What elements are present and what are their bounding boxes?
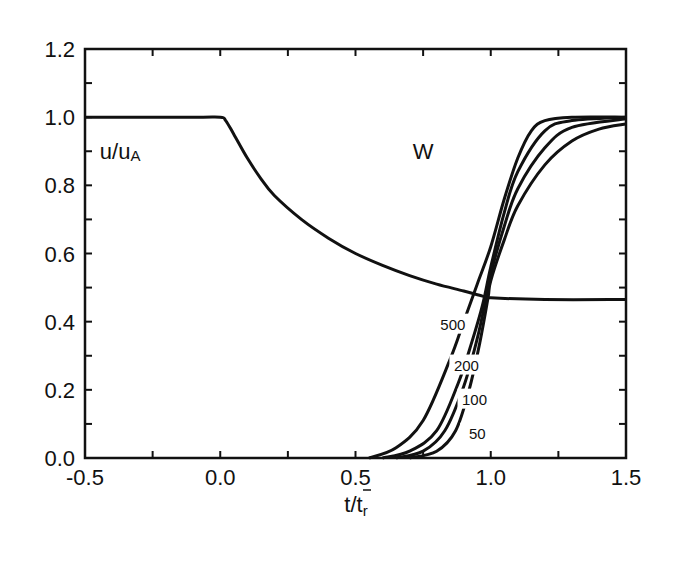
x-axis-label-main: t/t bbox=[344, 492, 362, 517]
chart: -0.50.00.51.01.50.00.20.40.60.81.01.2u/u… bbox=[0, 0, 673, 572]
series-line-0 bbox=[85, 117, 626, 300]
y-tick-label: 0.2 bbox=[44, 378, 75, 403]
x-axis-label-sub: r bbox=[363, 502, 368, 519]
annotation-uua: u/uA bbox=[100, 139, 141, 164]
x-tick-label: 0.5 bbox=[340, 465, 371, 490]
y-tick-label: 0.6 bbox=[44, 242, 75, 267]
annotation-100: 100 bbox=[462, 391, 487, 408]
y-tick-label: 1.0 bbox=[44, 105, 75, 130]
annotation-500: 500 bbox=[440, 316, 465, 333]
y-tick-label: 0.8 bbox=[44, 173, 75, 198]
labels-layer: -0.50.00.51.01.50.00.20.40.60.81.01.2u/u… bbox=[44, 37, 641, 490]
annotation-50: 50 bbox=[469, 425, 486, 442]
x-tick-label: 1.5 bbox=[611, 465, 642, 490]
y-tick-label: 0.4 bbox=[44, 310, 75, 335]
series-line-1 bbox=[369, 117, 626, 458]
y-tick-label: 1.2 bbox=[44, 37, 75, 62]
series-line-2 bbox=[383, 117, 626, 458]
y-tick-label: 0.0 bbox=[44, 446, 75, 471]
svg-text:t/tr: t/tr bbox=[344, 492, 367, 519]
annotation-w: W bbox=[413, 139, 434, 164]
x-tick-label: 1.0 bbox=[475, 465, 506, 490]
x-tick-label: 0.0 bbox=[205, 465, 236, 490]
series-layer bbox=[85, 117, 626, 458]
x-axis-label: t/tr bbox=[344, 490, 371, 519]
annotation-200: 200 bbox=[454, 357, 479, 374]
